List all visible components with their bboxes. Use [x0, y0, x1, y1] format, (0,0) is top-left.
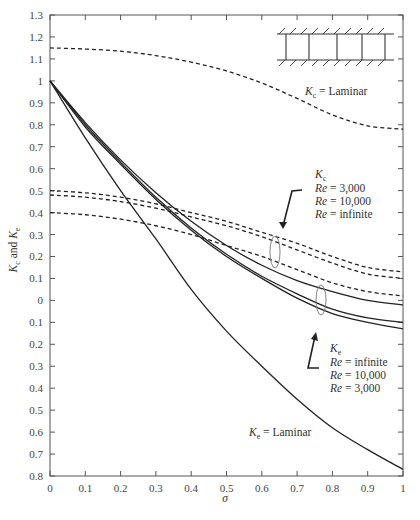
- y-tick-label: 0.5: [29, 185, 43, 197]
- y-tick-label: 0.7: [29, 141, 43, 153]
- kc-laminar-label: Kc = Laminar: [304, 85, 368, 100]
- x-tick-label: 0: [47, 482, 53, 494]
- x-tick-label: 0.3: [149, 482, 163, 494]
- y-tick-label: 1.2: [29, 31, 43, 43]
- x-tick-label: 0.2: [114, 482, 128, 494]
- y-tick-label: 0.4: [29, 207, 43, 219]
- svg-text:Re = 10,000: Re = 10,000: [329, 369, 386, 382]
- plot-series: [50, 48, 403, 469]
- svg-text:Re = 3,000: Re = 3,000: [329, 382, 381, 395]
- kc-turbulent-legend: Kc Re = 3,000 Re = 10,000 Re = infinite: [270, 168, 373, 268]
- svg-text:Re = 3,000: Re = 3,000: [314, 182, 366, 195]
- x-tick-label: 0.8: [326, 482, 340, 494]
- svg-text:Re = 10,000: Re = 10,000: [314, 195, 371, 208]
- y-tick-label: 0: [38, 294, 44, 306]
- y-axis-title: Kc and Ke: [7, 227, 22, 273]
- core-schematic-inset: [277, 28, 394, 66]
- y-tick-label: 0.9: [29, 97, 43, 109]
- x-tick-label: 0.7: [290, 482, 304, 494]
- x-tick-label: 0.4: [184, 482, 198, 494]
- y-tick-label: 0.8: [29, 119, 43, 131]
- y-tick-label: 0.1: [29, 272, 43, 284]
- svg-text:Ke: Ke: [329, 342, 342, 357]
- svg-text:Kc: Kc: [314, 168, 327, 183]
- x-tick-label: 0.6: [255, 482, 269, 494]
- y-tick-label: 0.7: [29, 448, 43, 460]
- y-tick-label: 0.4: [29, 382, 43, 394]
- plot-axes: 1.31.21.110.90.80.70.60.50.40.30.20.100.…: [29, 9, 406, 494]
- y-tick-label: 1: [38, 75, 44, 87]
- svg-text:Kc and Ke: Kc and Ke: [7, 227, 22, 273]
- loss-coefficient-chart: 1.31.21.110.90.80.70.60.50.40.30.20.100.…: [0, 0, 420, 520]
- y-tick-label: 0.1: [29, 316, 43, 328]
- y-tick-label: 0.2: [29, 338, 43, 350]
- x-tick-label: 0.1: [78, 482, 92, 494]
- y-tick-label: 0.6: [29, 426, 43, 438]
- series-ke-laminar: [50, 81, 403, 470]
- kc-arrow-icon: [283, 190, 302, 226]
- y-tick-label: 0.3: [29, 229, 43, 241]
- y-tick-label: 1.3: [29, 9, 43, 21]
- y-tick-label: 0.3: [29, 360, 43, 372]
- y-tick-label: 1.1: [29, 53, 43, 65]
- y-tick-label: 0.5: [29, 404, 43, 416]
- y-tick-label: 0.6: [29, 163, 43, 175]
- ke-laminar-label: Ke = Laminar: [248, 426, 312, 441]
- x-tick-label: 0.9: [361, 482, 375, 494]
- x-tick-label: 1: [400, 482, 406, 494]
- ke-group-ellipse: [316, 285, 326, 315]
- kc-group-ellipse: [270, 236, 280, 268]
- y-tick-label: 0.8: [29, 470, 43, 482]
- svg-text:Re = infinite: Re = infinite: [329, 356, 388, 368]
- y-tick-label: 0.2: [29, 250, 43, 262]
- svg-text:Re = infinite: Re = infinite: [314, 208, 373, 220]
